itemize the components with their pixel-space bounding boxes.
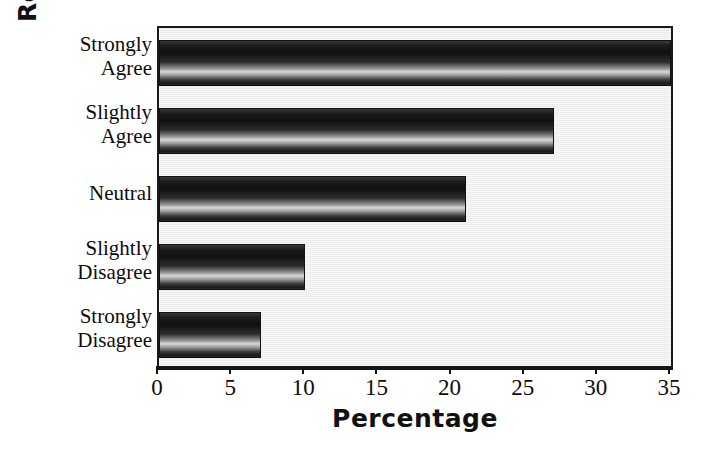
y-tick-label-line1: Neutral bbox=[89, 181, 152, 205]
y-tick-label-line1: Slightly bbox=[85, 100, 152, 124]
y-tick-label-line2: Disagree bbox=[46, 260, 152, 284]
plot-area bbox=[157, 26, 673, 370]
y-tick-label-slightly-disagree: Slightly Disagree bbox=[46, 236, 152, 284]
x-axis-tick bbox=[302, 366, 304, 374]
y-tick-label-line1: Slightly bbox=[85, 236, 152, 260]
y-tick-label-line1: Strongly bbox=[80, 304, 152, 328]
y-tick-label-strongly-agree: Strongly Agree bbox=[46, 32, 152, 80]
bars-layer bbox=[159, 28, 671, 368]
y-tick-label-slightly-agree: Slightly Agree bbox=[46, 100, 152, 148]
y-tick-label-neutral: Neutral bbox=[46, 181, 152, 205]
y-tick-label-line2: Agree bbox=[46, 124, 152, 148]
x-axis-tick bbox=[522, 366, 524, 374]
x-axis-tick-label: 30 bbox=[566, 374, 626, 402]
x-axis-tick bbox=[229, 366, 231, 374]
x-axis-tick bbox=[595, 366, 597, 374]
x-axis-tick-label: 15 bbox=[346, 374, 406, 402]
x-axis-tick bbox=[156, 366, 158, 374]
chart-title bbox=[157, 0, 673, 2]
x-axis-title: Percentage bbox=[157, 404, 673, 433]
y-tick-label-line1: Strongly bbox=[80, 32, 152, 56]
x-axis-tick-label: 35 bbox=[639, 374, 699, 402]
x-axis-tick-label: 0 bbox=[127, 374, 187, 402]
y-axis-tick-labels: Strongly Agree Slightly Agree Neutral Sl… bbox=[46, 26, 152, 366]
bar-slightly-disagree bbox=[159, 244, 305, 290]
x-axis-tick bbox=[449, 366, 451, 374]
x-axis-tick-label: 25 bbox=[493, 374, 553, 402]
bar-chart: Response Categories Strongly Agree Sligh… bbox=[0, 0, 703, 453]
bar-slightly-agree bbox=[159, 108, 554, 154]
x-axis-tick-label: 5 bbox=[200, 374, 260, 402]
x-axis-tick bbox=[375, 366, 377, 374]
y-tick-label-line2: Disagree bbox=[46, 328, 152, 352]
y-axis-title: Response Categories bbox=[4, 0, 50, 64]
y-tick-label-line2: Agree bbox=[46, 56, 152, 80]
x-axis-tick bbox=[668, 366, 670, 374]
x-axis-tick-label: 20 bbox=[420, 374, 480, 402]
bar-strongly-agree bbox=[159, 40, 671, 86]
bar-neutral bbox=[159, 176, 466, 222]
x-axis-tick-labels: 05101520253035 bbox=[0, 374, 703, 404]
x-axis-tick-label: 10 bbox=[273, 374, 333, 402]
bar-strongly-disagree bbox=[159, 312, 261, 358]
y-tick-label-strongly-disagree: Strongly Disagree bbox=[46, 304, 152, 352]
